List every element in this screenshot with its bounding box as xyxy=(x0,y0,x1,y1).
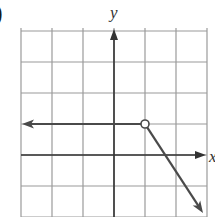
x-axis-label: x xyxy=(208,147,215,166)
right-arrow-icon xyxy=(193,200,203,213)
function-graph: y x xyxy=(0,0,215,217)
open-circle-icon xyxy=(141,120,149,128)
y-axis-label: y xyxy=(108,3,118,22)
right-ray xyxy=(147,127,200,208)
x-axis-arrow-icon xyxy=(195,151,206,159)
